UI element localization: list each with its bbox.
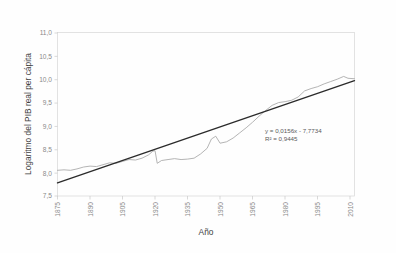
x-tick-label: 1890 (87, 202, 94, 217)
y-tick-label: 11,0 (40, 29, 53, 36)
x-axis-title: Año (199, 227, 214, 237)
x-tick-label: 1965 (249, 202, 256, 217)
chart-figure: 11,0 10,5 10,0 9,5 9,0 8,5 8,0 7,5 1875 … (0, 0, 396, 253)
x-tick-label: 2010 (347, 202, 354, 217)
y-tick-label: 10,5 (39, 53, 52, 60)
x-tick-label: 1995 (314, 202, 321, 217)
x-tick-label: 1935 (184, 202, 191, 217)
x-tick-label: 1980 (282, 202, 289, 217)
y-tick-label: 8,5 (43, 146, 52, 153)
x-tick-label: 1875 (54, 202, 61, 217)
y-axis-title: Logaritmo del PIB real per cápita (23, 53, 33, 175)
y-tick-label: 9,5 (43, 99, 52, 106)
y-tick-label: 7,5 (43, 192, 52, 199)
trendline-r2-label: R² = 0,9445 (265, 135, 298, 142)
y-tick-label: 9,0 (43, 123, 52, 130)
y-tick-label: 8,0 (43, 170, 52, 177)
x-tick-label: 1950 (217, 202, 224, 217)
x-tick-label: 1920 (152, 202, 159, 217)
x-tick-label: 1905 (119, 202, 126, 217)
trendline-equation-label: y = 0,0156x - 7,7734 (265, 127, 322, 134)
y-tick-label: 10,0 (39, 76, 52, 83)
chart-canvas: 11,0 10,5 10,0 9,5 9,0 8,5 8,0 7,5 1875 … (0, 0, 396, 253)
